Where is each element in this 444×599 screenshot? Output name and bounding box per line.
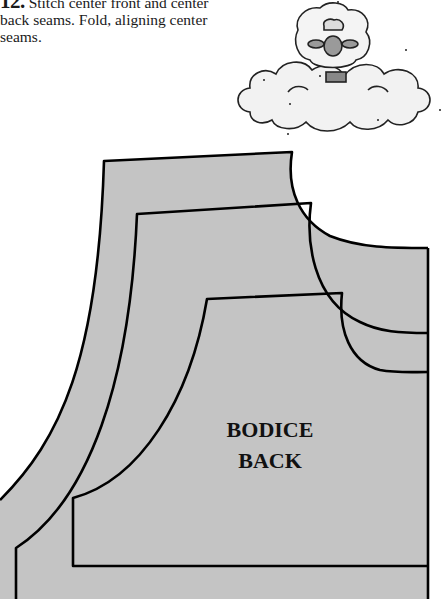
pattern-fill [0,152,428,599]
label-line-2: BACK [200,445,340,476]
pattern-piece-label: BODICE BACK [200,414,340,476]
bodice-back-pattern [0,0,444,599]
label-line-1: BODICE [200,414,340,445]
